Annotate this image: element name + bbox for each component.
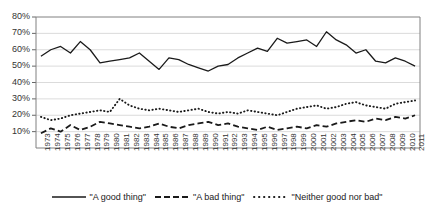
- y-axis-tick-label: 80%: [0, 12, 30, 21]
- legend-item-neither[interactable]: "Neither good nor bad": [253, 192, 382, 202]
- legend-label-good: "A good thing": [90, 192, 146, 202]
- x-axis-tick-label: 1973: [44, 133, 52, 151]
- x-axis-tick-label: 2004: [350, 133, 358, 151]
- x-axis-tick-label: 1987: [182, 133, 190, 151]
- legend-swatch-dashed: [155, 193, 189, 201]
- x-axis-tick-label: 1986: [172, 133, 180, 151]
- x-axis-tick-label: 2006: [369, 133, 377, 151]
- x-axis-tick-label: 1979: [103, 133, 111, 151]
- x-axis-tick-label: 2011: [418, 134, 426, 151]
- x-axis-tick-label: 1990: [212, 133, 220, 151]
- x-axis-tick-label: 1989: [202, 133, 210, 151]
- legend-label-bad: "A bad thing": [193, 192, 244, 202]
- line-chart: 10%20%30%40%50%60%70%80% 197319741975197…: [0, 0, 434, 209]
- y-axis-tick-label: 10%: [0, 127, 30, 136]
- gridlines: [32, 17, 420, 132]
- series-line-0: [41, 32, 415, 71]
- legend-swatch-solid: [52, 193, 86, 201]
- y-axis-tick-label: 30%: [0, 94, 30, 103]
- x-axis-tick-label: 2001: [320, 133, 328, 151]
- x-axis-tick-label: 2007: [379, 133, 387, 151]
- x-axis-tick-label: 1978: [94, 133, 102, 151]
- x-axis-tick-label: 1984: [153, 133, 161, 151]
- legend-item-good[interactable]: "A good thing": [52, 192, 146, 202]
- x-axis-tick-label: 1999: [300, 133, 308, 151]
- x-axis-tick-label: 2003: [340, 133, 348, 151]
- x-axis-tick-label: 2002: [330, 133, 338, 151]
- x-axis-tick-label: 2010: [409, 133, 417, 151]
- legend-label-neither: "Neither good nor bad": [291, 192, 382, 202]
- x-axis-tick-label: 1994: [251, 133, 259, 151]
- series-line-2: [41, 99, 415, 120]
- x-axis-tick-label: 1977: [84, 133, 92, 151]
- x-axis-tick-label: 1998: [290, 133, 298, 151]
- x-axis-tick-label: 1975: [64, 133, 72, 151]
- y-axis-tick-label: 70%: [0, 28, 30, 37]
- x-axis-tick-label: 1996: [271, 133, 279, 151]
- x-axis-tick-label: 1992: [231, 133, 239, 151]
- x-axis-tick-label: 1991: [222, 133, 230, 151]
- series-line-1: [41, 115, 415, 133]
- x-axis-tick-label: 1988: [192, 133, 200, 151]
- legend-swatch-dotted: [253, 193, 287, 201]
- y-axis-tick-label: 60%: [0, 45, 30, 54]
- x-axis-tick-label: 1981: [123, 133, 131, 151]
- x-axis-tick-label: 1974: [54, 133, 62, 151]
- y-axis-tick-label: 50%: [0, 61, 30, 70]
- y-axis-tick-label: 40%: [0, 78, 30, 87]
- x-axis-tick-label: 1985: [162, 133, 170, 151]
- x-axis-tick-label: 1976: [74, 133, 82, 151]
- legend-item-bad[interactable]: "A bad thing": [155, 192, 244, 202]
- y-axis-tick-label: 20%: [0, 110, 30, 119]
- x-axis-tick-label: 2000: [310, 133, 318, 151]
- chart-legend: "A good thing" "A bad thing" "Neither go…: [0, 188, 434, 206]
- x-axis-tick-label: 1997: [281, 133, 289, 151]
- x-axis-tick-label: 2008: [389, 133, 397, 151]
- x-axis-tick-label: 2005: [359, 133, 367, 151]
- x-axis-tick-label: 1980: [113, 133, 121, 151]
- x-axis-tick-label: 2009: [399, 133, 407, 151]
- x-axis-tick-label: 1982: [133, 133, 141, 151]
- x-axis-tick-label: 1995: [261, 133, 269, 151]
- x-axis-tick-label: 1993: [241, 133, 249, 151]
- plot-area: [0, 0, 434, 209]
- x-axis-tick-label: 1983: [143, 133, 151, 151]
